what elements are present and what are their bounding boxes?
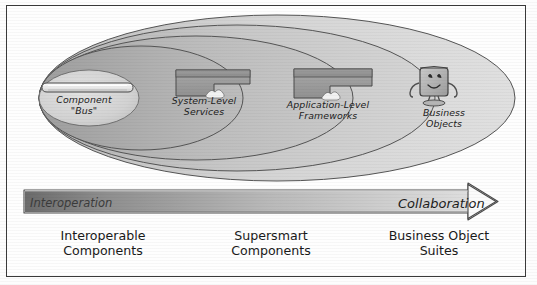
ring-2-label: System-Level Services <box>152 96 256 117</box>
ring-1-label: Component "Bus" <box>30 95 138 116</box>
bus-bar-icon <box>42 83 133 92</box>
arrow-right-label: Collaboration <box>398 196 485 211</box>
category-label-interoperable-components: Interoperable Components <box>8 229 198 259</box>
figure-caption <box>6 276 526 285</box>
ring-3-label: Application-Level Frameworks <box>268 100 388 121</box>
arrow-left-label: Interoperation <box>30 196 112 210</box>
category-label-supersmart-components: Supersmart Components <box>176 229 366 259</box>
figure-canvas: Component "Bus" System-Level Services Ap… <box>0 0 537 285</box>
ring-4-label: Business Objects <box>392 108 496 129</box>
category-label-business-object-suites: Business Object Suites <box>344 229 534 259</box>
